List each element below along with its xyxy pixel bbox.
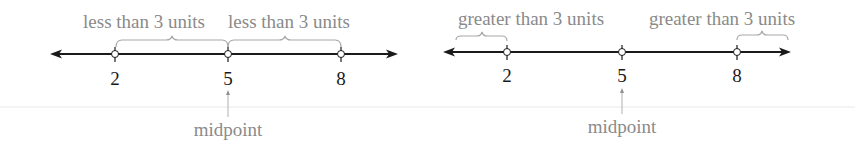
point-label-5: 5 [223, 68, 233, 89]
number-line-less-than: less than 3 units less than 3 units 2 5 … [50, 11, 398, 140]
open-point-5 [619, 49, 626, 56]
brace-left-ray [456, 32, 507, 41]
midpoint-label: midpoint [588, 116, 657, 137]
distance-label-left: greater than 3 units [458, 8, 604, 29]
point-label-2: 2 [110, 68, 120, 89]
point-label-5: 5 [617, 65, 627, 86]
open-point-8 [734, 49, 741, 56]
point-label-2: 2 [502, 65, 512, 86]
open-point-2 [504, 49, 511, 56]
midpoint-label: midpoint [194, 119, 263, 140]
point-label-8: 8 [732, 65, 742, 86]
number-line-diagrams: less than 3 units less than 3 units 2 5 … [0, 0, 855, 150]
open-point-5 [225, 51, 232, 58]
open-point-2 [112, 51, 119, 58]
distance-label-right: less than 3 units [228, 11, 350, 32]
distance-label-right: greater than 3 units [649, 8, 795, 29]
brace-left-segment [116, 36, 228, 47]
midpoint-arrow-icon [226, 90, 230, 95]
brace-right-ray [737, 31, 788, 40]
distance-label-left: less than 3 units [83, 11, 205, 32]
midpoint-arrow-icon [620, 88, 624, 93]
open-point-8 [338, 51, 345, 58]
point-label-8: 8 [336, 68, 346, 89]
number-line-greater-than: greater than 3 units greater than 3 unit… [443, 8, 795, 137]
brace-right-segment [228, 36, 341, 47]
